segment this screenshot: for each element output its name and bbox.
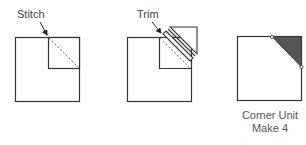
trim-label: Trim <box>137 8 159 20</box>
caption-line-1: Corner Unit <box>236 109 304 122</box>
trim-block <box>128 22 198 102</box>
arrow-icon <box>152 22 161 33</box>
corner-unit-caption: Corner Unit Make 4 <box>236 109 304 135</box>
stitch-block <box>16 22 80 102</box>
stitch-label: Stitch <box>17 8 45 20</box>
caption-line-2: Make 4 <box>236 122 304 135</box>
arrow-icon <box>40 22 47 35</box>
corner-unit-block <box>238 35 304 100</box>
